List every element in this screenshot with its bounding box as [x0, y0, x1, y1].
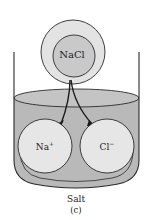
sodium-ion: Na+: [18, 119, 72, 173]
caption: Salt: [67, 194, 85, 204]
compound-label: NaCl: [59, 49, 85, 60]
salt-dissociation-diagram: NaCl Na+ Cl− Salt (c): [0, 0, 147, 220]
chloride-ion: Cl−: [80, 119, 134, 173]
chloride-charge: −: [109, 140, 114, 147]
liquid-surface: [14, 89, 139, 107]
sodium-charge: +: [49, 140, 54, 147]
chloride-symbol: Cl: [100, 142, 110, 152]
panel-label: (c): [70, 205, 81, 215]
nacl-molecule: NaCl: [41, 20, 105, 84]
sodium-symbol: Na: [36, 142, 50, 152]
